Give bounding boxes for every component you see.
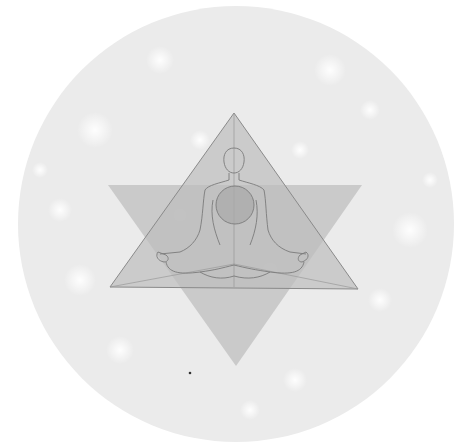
illustration [0, 0, 469, 447]
star-meditation-graphic [0, 0, 469, 447]
heart-chakra [216, 186, 254, 224]
stray-dot [189, 372, 192, 375]
